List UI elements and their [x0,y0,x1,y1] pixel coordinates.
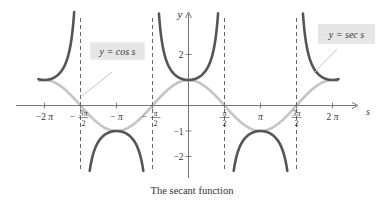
chart-caption: The secant function [0,185,384,196]
secant-chart: sy−2 π−3π2− π−π2π2π3π22 π2−1−2 y = cos s… [0,0,384,207]
x-tick-minus: − [142,112,147,122]
sec-branch [38,12,74,80]
y-tick-label: −1 [173,127,183,137]
sec-branch [303,14,339,80]
x-tick-denominator: 2 [81,119,85,128]
x-tick-label: − π [110,112,123,122]
y-axis-label: y [177,8,183,20]
y-tick-label: −2 [173,152,183,162]
x-axis-label: s [366,106,370,117]
x-tick-denominator: 2 [223,119,227,128]
callouts: y = cos sy = sec s [82,24,375,96]
x-tick-denominator: 2 [153,119,157,128]
x-tick-label: −2 π [36,112,53,122]
x-tick-numerator: π [153,109,158,118]
cos-leader-line [82,72,112,96]
x-tick-label: 2 π [327,112,339,122]
sec-callout-label: y = sec s [328,29,364,40]
x-tick-minus: − [70,112,75,122]
x-tick-denominator: 2 [295,119,299,128]
sec-branch [234,131,288,171]
x-tick-numerator: 3π [78,109,88,118]
sec-branch [90,131,144,171]
cos-callout-label: y = cos s [99,46,136,57]
x-tick-label: π [258,112,263,122]
sec-leader-line [314,49,337,73]
x-tick-numerator: 3π [291,109,301,118]
y-tick-label: 2 [179,50,184,60]
